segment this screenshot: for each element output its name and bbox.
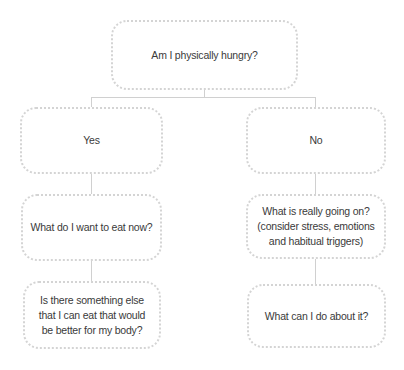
connector-yes-to-step1 [91,173,92,195]
no-step-1-label: What is really going on? (consider stres… [257,204,374,249]
no-step-1-box: What is really going on? (consider stres… [246,194,386,259]
no-step-2-label: What can I do about it? [265,309,368,324]
yes-step-2-box: Is there something else that I can eat t… [23,281,161,349]
connector-no-to-step1 [315,173,316,195]
root-question-label: Am I physically hungry? [151,48,257,63]
yes-step-2-label: Is there something else that I can eat t… [39,293,146,338]
connector-branch-horizontal [91,97,316,98]
root-question-box: Am I physically hungry? [111,20,298,90]
yes-step-1-label: What do I want to eat now? [30,220,152,235]
no-branch-box: No [246,107,386,174]
no-label: No [309,133,322,148]
yes-branch-box: Yes [20,107,163,174]
connector-yes-step1-to-step2 [91,260,92,282]
yes-step-1-box: What do I want to eat now? [21,194,162,261]
no-step-2-box: What can I do about it? [247,284,386,348]
connector-no-step1-to-step2 [315,258,316,285]
yes-label: Yes [83,133,100,148]
